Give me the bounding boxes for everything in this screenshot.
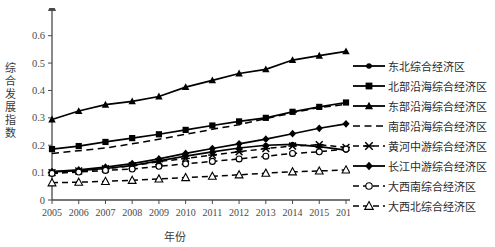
data-point-marker <box>156 163 162 169</box>
data-point-marker <box>343 99 349 105</box>
legend-label: 北部沿海综合经济区 <box>388 78 487 94</box>
data-point-marker <box>262 135 269 143</box>
data-point-marker <box>342 120 349 128</box>
legend-label: 黄河中游综合经济区 <box>388 138 487 154</box>
x-axis-tick-label: 2012 <box>229 207 249 218</box>
legend-label: 东部沿海综合经济区 <box>388 98 487 114</box>
y-axis-tick-label: 0.6 <box>32 30 45 41</box>
legend-item[interactable]: 南部沿海综合经济区 <box>352 116 495 136</box>
chart-legend: 东北综合经济区北部沿海综合经济区东部沿海综合经济区南部沿海综合经济区黄河中游综合… <box>352 56 495 216</box>
data-point-marker <box>366 183 372 189</box>
series-line <box>52 170 346 183</box>
x-axis-tick-label: 2009 <box>149 207 169 218</box>
x-axis-tick-label: 2005 <box>42 207 62 218</box>
data-point-marker <box>263 153 269 159</box>
legend-symbol <box>352 158 386 174</box>
data-point-marker <box>289 130 296 138</box>
legend-symbol <box>352 198 386 214</box>
data-point-marker <box>49 146 55 152</box>
legend-item[interactable]: 东北综合经济区 <box>352 56 495 76</box>
data-point-marker <box>316 149 322 155</box>
y-axis-tick-label: 0.5 <box>32 58 45 69</box>
series-line <box>52 103 346 150</box>
y-axis-tick-label: 0.4 <box>32 85 46 96</box>
data-point-marker <box>316 124 323 132</box>
data-point-marker <box>365 162 373 171</box>
x-axis-tick-label: 2014 <box>283 207 303 218</box>
y-axis-label-char: 综 <box>2 62 18 75</box>
y-axis-label-char: 指 <box>2 114 18 127</box>
legend-item[interactable]: 长江中游综合经济区 <box>352 156 495 176</box>
data-point-marker <box>76 143 82 149</box>
y-axis-label-char: 发 <box>2 88 18 101</box>
x-axis-tick-label: 2016 <box>336 207 350 218</box>
x-axis-label: 年份 <box>0 228 350 244</box>
data-point-marker <box>366 83 373 90</box>
data-point-marker <box>102 139 108 145</box>
data-point-marker <box>366 63 372 69</box>
data-point-marker <box>129 166 135 172</box>
data-point-marker <box>156 131 162 137</box>
legend-item[interactable]: 大西北综合经济区 <box>352 196 495 216</box>
legend-item[interactable]: 黄河中游综合经济区 <box>352 136 495 156</box>
data-point-marker <box>364 142 373 149</box>
legend-symbol <box>352 98 386 114</box>
x-axis-tick-label: 2011 <box>203 207 223 218</box>
data-point-marker <box>209 122 215 128</box>
series-line <box>52 124 346 172</box>
legend-item[interactable]: 大西南综合经济区 <box>352 176 495 196</box>
y-axis-tick-label: 0.2 <box>32 140 45 151</box>
data-point-marker <box>236 140 243 148</box>
data-point-marker <box>236 118 242 124</box>
x-axis-tick-label: 2015 <box>309 207 329 218</box>
legend-item[interactable]: 北部沿海综合经济区 <box>352 76 495 96</box>
legend-label: 长江中游综合经济区 <box>388 158 487 174</box>
y-axis-tick-label: 0.3 <box>32 112 45 123</box>
y-axis-tick-label: 0.1 <box>32 167 45 178</box>
y-axis-tick-label: 0 <box>40 195 45 206</box>
data-point-marker <box>343 146 349 152</box>
y-axis-label-char: 合 <box>2 75 18 88</box>
data-point-marker <box>236 156 242 162</box>
y-axis-label-char: 数 <box>2 127 18 140</box>
x-axis-tick-label: 2006 <box>69 207 89 218</box>
data-point-marker <box>342 47 349 54</box>
y-axis-label: 综合发展指数 <box>2 62 18 140</box>
data-point-marker <box>129 135 135 141</box>
data-point-marker <box>49 170 55 176</box>
plot-area: 00.10.20.30.40.50.6200520062007200820092… <box>20 8 350 223</box>
legend-symbol <box>352 58 386 74</box>
data-point-marker <box>290 151 296 157</box>
x-axis-tick-label: 2008 <box>122 207 142 218</box>
data-point-marker <box>76 169 82 175</box>
line-chart-svg: 00.10.20.30.40.50.6200520062007200820092… <box>20 8 350 223</box>
legend-symbol <box>352 78 386 94</box>
legend-label: 南部沿海综合经济区 <box>388 118 487 134</box>
legend-symbol <box>352 118 386 134</box>
legend-label: 大西北综合经济区 <box>388 198 476 214</box>
y-axis-label-char: 展 <box>2 101 18 114</box>
data-point-marker <box>209 158 215 164</box>
x-axis-tick-label: 2007 <box>95 207 115 218</box>
legend-label: 东北综合经济区 <box>388 58 465 74</box>
data-point-marker <box>103 167 109 173</box>
legend-label: 大西南综合经济区 <box>388 178 476 194</box>
data-point-marker <box>183 161 189 167</box>
legend-item[interactable]: 东部沿海综合经济区 <box>352 96 495 116</box>
x-axis-tick-label: 2010 <box>176 207 196 218</box>
legend-symbol <box>352 178 386 194</box>
chart-figure: 综合发展指数 00.10.20.30.40.50.620052006200720… <box>0 0 495 247</box>
x-axis-tick-label: 2013 <box>256 207 276 218</box>
legend-symbol <box>352 138 386 154</box>
data-point-marker <box>183 127 189 133</box>
